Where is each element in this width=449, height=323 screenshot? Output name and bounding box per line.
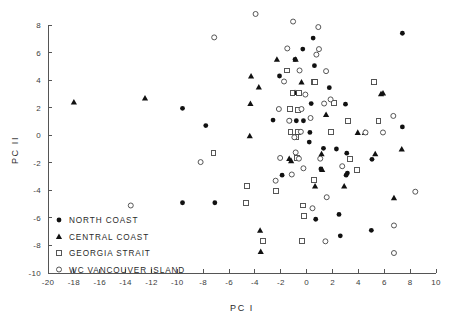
y-tick-label: 8 bbox=[36, 21, 41, 30]
x-tick-label: -6 bbox=[225, 278, 233, 287]
point-marker bbox=[285, 46, 290, 51]
point-marker bbox=[282, 79, 287, 84]
legend-marker-2 bbox=[57, 251, 62, 256]
point-marker bbox=[277, 74, 282, 79]
x-tick-label: 8 bbox=[408, 278, 413, 287]
point-marker bbox=[289, 172, 294, 177]
point-marker bbox=[312, 63, 317, 68]
point-marker bbox=[327, 85, 332, 90]
point-marker bbox=[369, 228, 374, 233]
point-marker bbox=[280, 173, 285, 178]
point-marker bbox=[328, 97, 333, 102]
point-marker bbox=[258, 249, 264, 255]
point-marker bbox=[303, 92, 308, 97]
point-marker bbox=[296, 156, 301, 161]
point-marker bbox=[313, 217, 318, 222]
series-3 bbox=[128, 11, 418, 255]
point-marker bbox=[292, 135, 297, 140]
point-marker bbox=[363, 130, 368, 135]
y-tick-label: 2 bbox=[36, 104, 41, 113]
point-marker bbox=[291, 19, 296, 24]
point-marker bbox=[257, 227, 263, 233]
point-marker bbox=[372, 151, 378, 157]
point-marker bbox=[324, 195, 329, 200]
point-marker bbox=[203, 123, 208, 128]
x-tick-label: 0 bbox=[304, 278, 309, 287]
point-marker bbox=[248, 73, 254, 79]
x-tick-label: 4 bbox=[356, 278, 361, 287]
point-marker bbox=[274, 56, 280, 62]
point-marker bbox=[316, 47, 321, 52]
point-marker bbox=[287, 118, 292, 123]
point-marker bbox=[307, 140, 312, 145]
y-tick-label: -6 bbox=[33, 214, 41, 223]
y-axis-title: PC II bbox=[10, 136, 20, 164]
legend-label-3: WC VANCOUVER ISLAND bbox=[69, 266, 185, 275]
y-tick-label: -10 bbox=[29, 269, 42, 278]
point-marker bbox=[71, 99, 77, 105]
x-tick-label: 2 bbox=[330, 278, 335, 287]
point-marker bbox=[297, 68, 302, 73]
point-marker bbox=[355, 167, 360, 172]
x-tick-label: -4 bbox=[251, 278, 259, 287]
point-marker bbox=[294, 118, 299, 123]
point-marker bbox=[299, 107, 304, 112]
y-tick-label: -8 bbox=[33, 241, 41, 250]
point-marker bbox=[297, 91, 302, 96]
point-marker bbox=[324, 69, 329, 74]
point-marker bbox=[355, 129, 361, 135]
point-marker bbox=[323, 111, 329, 117]
point-marker bbox=[300, 203, 305, 208]
point-marker bbox=[370, 157, 375, 162]
legend-label-1: CENTRAL COAST bbox=[69, 233, 149, 242]
point-marker bbox=[343, 102, 348, 107]
legend: NORTH COASTCENTRAL COASTGEORGIA STRAITWC… bbox=[56, 216, 185, 275]
y-tick-label: -2 bbox=[33, 159, 41, 168]
legend-marker-3 bbox=[57, 267, 62, 272]
plot-canvas: -20-18-16-14-12-10-8-6-4-20246810-10-8-6… bbox=[0, 0, 449, 323]
point-marker bbox=[321, 146, 326, 151]
legend-label-0: NORTH COAST bbox=[69, 216, 138, 225]
point-marker bbox=[312, 183, 318, 189]
scatter-plot-figure: -20-18-16-14-12-10-8-6-4-20246810-10-8-6… bbox=[0, 0, 449, 323]
y-tick-label: 0 bbox=[36, 131, 41, 140]
point-marker bbox=[287, 107, 292, 112]
point-marker bbox=[399, 146, 405, 152]
x-tick-label: -10 bbox=[171, 278, 184, 287]
point-marker bbox=[278, 155, 283, 160]
point-marker bbox=[256, 84, 262, 90]
x-axis-title: PC I bbox=[230, 303, 254, 313]
point-marker bbox=[400, 31, 405, 36]
point-marker bbox=[128, 203, 133, 208]
point-marker bbox=[344, 151, 349, 156]
point-marker bbox=[313, 80, 318, 85]
x-tick-label: 10 bbox=[431, 278, 441, 287]
point-marker bbox=[329, 129, 334, 134]
point-marker bbox=[247, 133, 253, 139]
point-marker bbox=[180, 200, 185, 205]
point-marker bbox=[318, 156, 323, 161]
y-tick-label: 6 bbox=[36, 49, 41, 58]
x-tick-label: -2 bbox=[277, 278, 285, 287]
point-marker bbox=[300, 47, 305, 52]
point-marker bbox=[372, 80, 377, 85]
point-marker bbox=[142, 95, 148, 101]
point-marker bbox=[243, 200, 248, 205]
point-marker bbox=[391, 223, 396, 228]
y-tick-label: -4 bbox=[33, 186, 41, 195]
point-marker bbox=[300, 238, 305, 243]
point-marker bbox=[308, 116, 313, 121]
point-marker bbox=[380, 130, 385, 135]
point-marker bbox=[316, 25, 321, 30]
legend-marker-1 bbox=[56, 233, 62, 239]
point-marker bbox=[413, 189, 418, 194]
point-marker bbox=[311, 36, 316, 41]
point-marker bbox=[273, 189, 278, 194]
point-marker bbox=[301, 118, 306, 123]
x-tick-label: -16 bbox=[93, 278, 106, 287]
point-marker bbox=[271, 118, 276, 123]
point-marker bbox=[400, 125, 405, 130]
point-marker bbox=[337, 212, 342, 217]
point-marker bbox=[301, 166, 306, 171]
point-marker bbox=[290, 91, 295, 96]
